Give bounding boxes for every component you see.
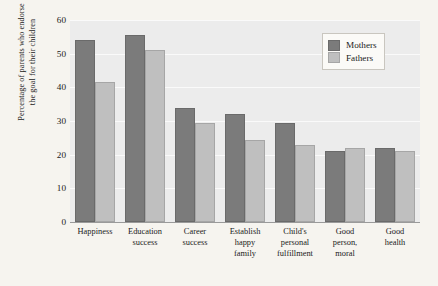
legend-label: Mothers xyxy=(346,40,377,50)
bar-group xyxy=(70,20,120,222)
x-axis-category-label: Establishhappyfamily xyxy=(220,226,270,284)
legend-item-fathers: Fathers xyxy=(328,52,377,63)
bar-fathers xyxy=(95,82,115,222)
x-axis-category-line: Good xyxy=(321,226,369,237)
x-axis-category-line: health xyxy=(371,237,419,248)
bar-group xyxy=(270,20,320,222)
y-axis-tick-label: 10 xyxy=(44,184,66,193)
x-axis-category-line: Happiness xyxy=(71,226,119,237)
x-axis-category-label: Child'spersonalfulfillment xyxy=(270,226,320,284)
x-axis-category-line: fulfillment xyxy=(271,248,319,259)
bar-group xyxy=(120,20,170,222)
x-axis-line xyxy=(70,222,420,223)
bar-fathers xyxy=(145,50,165,222)
y-axis-tick-label: 60 xyxy=(44,16,66,25)
legend: MothersFathers xyxy=(322,33,385,70)
bar-mothers xyxy=(375,148,395,222)
y-axis-title-line-2: the goal for their children xyxy=(28,0,39,157)
legend-item-mothers: Mothers xyxy=(328,40,377,51)
bar-group xyxy=(170,20,220,222)
x-axis-category-label: Goodhealth xyxy=(370,226,420,284)
bar-mothers xyxy=(225,114,245,222)
y-axis-title: Percentage of parents who endorse the go… xyxy=(17,0,45,157)
x-axis-category-line: Education xyxy=(121,226,169,237)
bar-chart: Percentage of parents who endorse the go… xyxy=(0,0,438,286)
x-axis-category-line: personal xyxy=(271,237,319,248)
bar-mothers xyxy=(275,123,295,222)
x-axis-category-label: Happiness xyxy=(70,226,120,284)
bar-fathers xyxy=(345,148,365,222)
bar-fathers xyxy=(395,151,415,222)
y-axis-tick-label: 50 xyxy=(44,49,66,58)
x-axis-category-line: happy xyxy=(221,237,269,248)
y-axis-tick-label: 0 xyxy=(44,218,66,227)
x-axis-category-label: Goodperson,moral xyxy=(320,226,370,284)
bar-mothers xyxy=(75,40,95,222)
x-axis-category-line: Establish xyxy=(221,226,269,237)
x-axis-category-line: success xyxy=(121,237,169,248)
x-axis-category-line: Child's xyxy=(271,226,319,237)
y-axis-title-line-1: Percentage of parents who endorse xyxy=(17,0,28,157)
y-axis-tick-label: 30 xyxy=(44,117,66,126)
x-axis-category-line: success xyxy=(171,237,219,248)
bar-mothers xyxy=(125,35,145,222)
x-axis-tick-labels: HappinessEducationsuccessCareersuccessEs… xyxy=(70,226,420,284)
bar-fathers xyxy=(295,145,315,222)
y-axis-tick-labels: 0102030405060 xyxy=(44,0,66,286)
bar-fathers xyxy=(245,140,265,222)
x-axis-category-label: Careersuccess xyxy=(170,226,220,284)
bar-mothers xyxy=(175,108,195,222)
x-axis-category-line: family xyxy=(221,248,269,259)
bar-group xyxy=(220,20,270,222)
x-axis-category-label: Educationsuccess xyxy=(120,226,170,284)
bar-mothers xyxy=(325,151,345,222)
legend-swatch-fathers xyxy=(328,52,340,63)
bar-fathers xyxy=(195,123,215,222)
x-axis-category-line: Good xyxy=(371,226,419,237)
y-axis-tick-label: 20 xyxy=(44,150,66,159)
x-axis-category-line: moral xyxy=(321,248,369,259)
x-axis-category-line: person, xyxy=(321,237,369,248)
y-axis-tick-label: 40 xyxy=(44,83,66,92)
legend-swatch-mothers xyxy=(328,40,340,51)
legend-label: Fathers xyxy=(346,53,373,63)
x-axis-category-line: Career xyxy=(171,226,219,237)
